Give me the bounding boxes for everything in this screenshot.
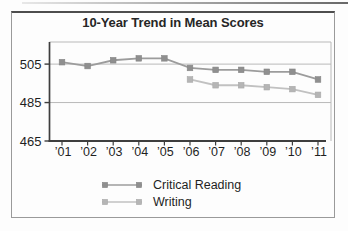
x-tick-label-5: ’05 <box>157 145 174 159</box>
marker-writing-11 <box>315 92 321 98</box>
marker-critical-reading-3 <box>110 57 116 63</box>
marker-critical-reading-8 <box>238 67 244 73</box>
x-tick-label-7: ’07 <box>208 145 225 159</box>
legend-label-writing: Writing <box>153 195 192 209</box>
marker-critical-reading-1 <box>59 59 65 65</box>
chart-legend: Critical Reading Writing <box>99 177 241 210</box>
swatch-marker <box>102 182 107 187</box>
swatch-marker <box>102 199 107 204</box>
marker-critical-reading-5 <box>162 56 168 62</box>
x-tick-label-8: ’08 <box>234 145 251 159</box>
chart-figure: 10-Year Trend in Mean Scores 505485465’0… <box>0 0 348 231</box>
x-tick-label-2: ’02 <box>80 145 97 159</box>
x-tick-label-11: ’11 <box>311 145 327 159</box>
x-tick-label-10: ’10 <box>285 145 302 159</box>
marker-critical-reading-2 <box>85 63 91 69</box>
x-tick-label-4: ’04 <box>131 145 148 159</box>
marker-writing-9 <box>264 84 270 90</box>
marker-writing-8 <box>238 82 244 88</box>
swatch-marker <box>136 199 141 204</box>
x-tick-label-6: ’06 <box>183 145 200 159</box>
legend-label-critical-reading: Critical Reading <box>153 178 241 192</box>
legend-item-critical-reading: Critical Reading <box>99 177 241 193</box>
swatch-marker <box>136 182 141 187</box>
x-tick-label-1: ’01 <box>55 145 72 159</box>
critical-reading-line-swatch <box>99 179 145 191</box>
writing-line-swatch <box>99 196 145 208</box>
series-line-writing <box>190 79 318 94</box>
x-tick-label-9: ’09 <box>259 145 276 159</box>
legend-item-writing: Writing <box>99 194 241 210</box>
y-tick-label-505: 505 <box>20 57 42 72</box>
marker-critical-reading-10 <box>290 69 296 75</box>
marker-writing-6 <box>187 77 193 83</box>
y-tick-label-465: 465 <box>20 134 42 149</box>
x-tick-label-3: ’03 <box>106 145 123 159</box>
marker-critical-reading-9 <box>264 69 270 75</box>
marker-critical-reading-4 <box>136 56 142 62</box>
marker-critical-reading-6 <box>187 65 193 71</box>
marker-writing-7 <box>213 82 219 88</box>
marker-critical-reading-7 <box>213 67 219 73</box>
marker-writing-10 <box>290 86 296 92</box>
marker-critical-reading-11 <box>315 77 321 83</box>
y-tick-label-485: 485 <box>20 95 42 110</box>
